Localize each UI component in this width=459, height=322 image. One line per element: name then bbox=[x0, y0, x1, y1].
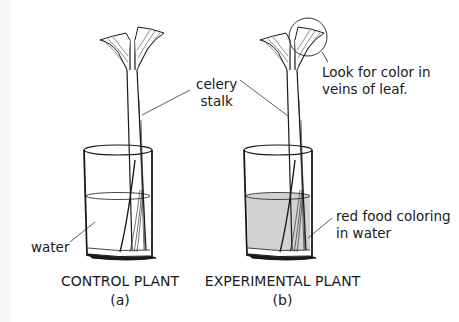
celery-stalk-leader-line bbox=[142, 90, 190, 115]
leaf-note-leader-line bbox=[322, 52, 328, 62]
leaf-note-line1: Look for color in bbox=[322, 64, 431, 81]
celery-stalk-label-line2: stalk bbox=[196, 93, 237, 110]
control-leaves bbox=[100, 27, 164, 70]
celery-stalk-label: celery stalk bbox=[196, 76, 237, 110]
control-plant bbox=[70, 27, 190, 260]
experimental-plant-title: EXPERIMENTAL PLANT bbox=[200, 272, 365, 291]
control-plant-caption: CONTROL PLANT (a) bbox=[60, 272, 180, 310]
celery-stalk-label-line1: celery bbox=[196, 76, 237, 93]
leaf-note-line2: veins of leaf. bbox=[322, 81, 431, 98]
control-plant-title: CONTROL PLANT bbox=[60, 272, 180, 291]
experimental-plant bbox=[240, 18, 332, 260]
experimental-plant-caption: EXPERIMENTAL PLANT (b) bbox=[200, 272, 365, 310]
red-food-line2: in water bbox=[336, 225, 451, 242]
red-food-coloring-label: red food coloring in water bbox=[336, 208, 451, 242]
red-food-line1: red food coloring bbox=[336, 208, 451, 225]
water-label: water bbox=[31, 239, 69, 256]
experimental-plant-sublabel: (b) bbox=[200, 291, 365, 310]
celery-stalk-leader-line-b bbox=[240, 80, 288, 116]
experimental-leaves bbox=[260, 27, 324, 70]
control-plant-sublabel: (a) bbox=[60, 291, 180, 310]
leaf-note-label: Look for color in veins of leaf. bbox=[322, 64, 431, 98]
